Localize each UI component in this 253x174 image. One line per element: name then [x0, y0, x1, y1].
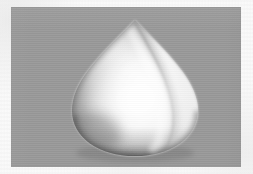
render-canvas [11, 7, 241, 167]
teardrop-solid [11, 7, 241, 167]
specular-hotspot [128, 84, 154, 106]
teardrop-solid-graphic [11, 7, 241, 167]
image-viewport [0, 0, 253, 174]
